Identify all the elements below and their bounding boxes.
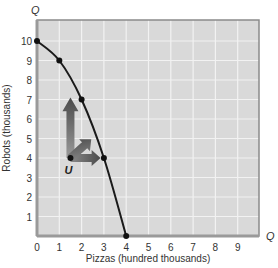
ppf-point	[56, 58, 62, 64]
y-tick-label: 3	[26, 173, 32, 184]
x-tick-label: 5	[146, 242, 152, 253]
x-axis-symbol: Q	[266, 230, 275, 242]
y-tick-label: 6	[26, 114, 32, 125]
y-axis-label: Robots (thousands)	[1, 84, 12, 171]
y-tick-label: 2	[26, 192, 32, 203]
x-axis-ticks: 0123456789	[34, 242, 241, 253]
x-tick-label: 1	[57, 242, 63, 253]
point-u	[67, 155, 73, 161]
ppf-point	[101, 155, 107, 161]
y-axis-ticks: 12345678910	[21, 36, 33, 223]
ppf-point	[123, 233, 129, 239]
y-tick-label: 8	[26, 75, 32, 86]
x-tick-label: 9	[235, 242, 241, 253]
x-tick-label: 7	[190, 242, 196, 253]
y-tick-label: 1	[26, 212, 32, 223]
y-tick-label: 9	[26, 56, 32, 67]
ppf-chart: U 0123456789 12345678910 Q Q Pizzas (hun…	[0, 0, 278, 268]
x-tick-label: 0	[34, 242, 40, 253]
x-axis-label: Pizzas (hundred thousands)	[86, 253, 211, 264]
x-tick-label: 4	[123, 242, 129, 253]
ppf-point	[34, 38, 40, 44]
y-axis-symbol: Q	[31, 4, 40, 16]
y-tick-label: 7	[26, 95, 32, 106]
x-tick-label: 2	[79, 242, 85, 253]
x-tick-label: 3	[101, 242, 107, 253]
y-tick-label: 4	[26, 153, 32, 164]
y-tick-label: 10	[21, 36, 33, 47]
x-tick-label: 8	[213, 242, 219, 253]
x-tick-label: 6	[168, 242, 174, 253]
ppf-point	[79, 97, 85, 103]
point-u-label: U	[64, 164, 73, 176]
y-tick-label: 5	[26, 134, 32, 145]
